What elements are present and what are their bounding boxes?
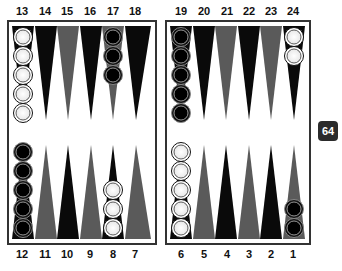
checkers-point-12 xyxy=(14,143,33,238)
point-18[interactable] xyxy=(125,26,151,120)
white-checker[interactable] xyxy=(14,66,33,85)
white-checker[interactable] xyxy=(172,181,191,200)
white-checker[interactable] xyxy=(172,162,191,181)
white-checker[interactable] xyxy=(285,47,304,66)
point-21[interactable] xyxy=(215,26,237,120)
point-10[interactable] xyxy=(57,145,79,239)
checkers-point-19 xyxy=(172,28,191,123)
white-checker[interactable] xyxy=(14,47,33,66)
point-7[interactable] xyxy=(125,145,151,239)
point-16[interactable] xyxy=(80,26,102,120)
black-checker[interactable] xyxy=(14,181,33,200)
black-checker[interactable] xyxy=(172,104,191,123)
point-23[interactable] xyxy=(260,26,282,120)
black-checker[interactable] xyxy=(172,85,191,104)
checkers-point-6 xyxy=(172,143,191,238)
point-5[interactable] xyxy=(193,145,215,239)
point-20[interactable] xyxy=(193,26,215,120)
black-checker[interactable] xyxy=(104,28,123,47)
board-graphics xyxy=(0,0,342,271)
black-checker[interactable] xyxy=(172,66,191,85)
checkers-point-8 xyxy=(104,181,123,238)
white-checker[interactable] xyxy=(285,28,304,47)
white-checker[interactable] xyxy=(104,181,123,200)
point-15[interactable] xyxy=(57,26,79,120)
black-checker[interactable] xyxy=(14,219,33,238)
point-9[interactable] xyxy=(80,145,102,239)
white-checker[interactable] xyxy=(14,104,33,123)
point-3[interactable] xyxy=(238,145,260,239)
white-checker[interactable] xyxy=(172,200,191,219)
black-checker[interactable] xyxy=(285,219,304,238)
black-checker[interactable] xyxy=(14,162,33,181)
black-checker[interactable] xyxy=(104,66,123,85)
points-bottom-left xyxy=(12,145,151,239)
points-top-left xyxy=(12,26,151,120)
point-2[interactable] xyxy=(260,145,282,239)
black-checker[interactable] xyxy=(104,47,123,66)
black-checker[interactable] xyxy=(172,47,191,66)
white-checker[interactable] xyxy=(14,28,33,47)
black-checker[interactable] xyxy=(285,200,304,219)
white-checker[interactable] xyxy=(172,143,191,162)
point-11[interactable] xyxy=(35,145,57,239)
white-checker[interactable] xyxy=(14,85,33,104)
doubling-cube[interactable]: 64 xyxy=(318,121,338,141)
black-checker[interactable] xyxy=(14,200,33,219)
white-checker[interactable] xyxy=(104,219,123,238)
point-14[interactable] xyxy=(35,26,57,120)
checkers-point-17 xyxy=(104,28,123,85)
white-checker[interactable] xyxy=(104,200,123,219)
black-checker[interactable] xyxy=(14,143,33,162)
black-checker[interactable] xyxy=(172,28,191,47)
checkers-point-13 xyxy=(14,28,33,123)
point-22[interactable] xyxy=(238,26,260,120)
white-checker[interactable] xyxy=(172,219,191,238)
point-4[interactable] xyxy=(215,145,237,239)
